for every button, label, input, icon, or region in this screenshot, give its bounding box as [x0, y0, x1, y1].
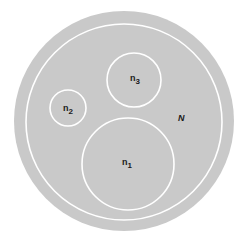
background-disc: [14, 11, 234, 231]
label-N: N: [178, 113, 185, 123]
set-diagram: n3 n2 n1 N: [0, 0, 248, 244]
